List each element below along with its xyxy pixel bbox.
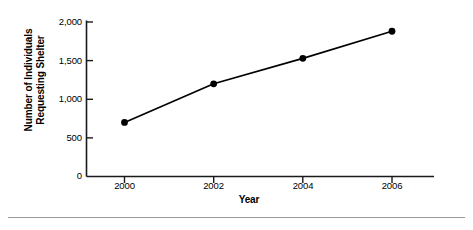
x-tick-label-2002: 2002 xyxy=(184,180,244,191)
x-tick-label-2000: 2000 xyxy=(95,180,155,191)
x-axis-title: Year xyxy=(219,194,279,205)
chart-figure: Number of Individuals Requesting Shelter… xyxy=(0,0,473,230)
x-tick-label-2006: 2006 xyxy=(362,180,422,191)
x-tick-label-2004: 2004 xyxy=(273,180,333,191)
bottom-divider-rule xyxy=(8,217,465,218)
